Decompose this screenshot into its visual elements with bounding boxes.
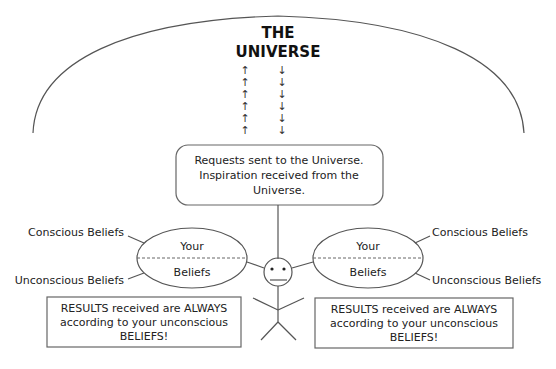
- right-results-box: RESULTS received are ALWAYS according to…: [315, 298, 513, 348]
- right-beliefs: Your Beliefs Conscious Beliefs Unconscio…: [292, 226, 542, 288]
- requests-line-2: Inspiration received from the: [199, 169, 359, 182]
- left-beliefs: Your Beliefs Conscious Beliefs Unconscio…: [15, 226, 264, 288]
- right-results-line-2: according to your unconscious: [330, 317, 498, 330]
- right-conscious-pointer: [415, 236, 430, 243]
- requests-box: Requests sent to the Universe. Inspirati…: [176, 145, 383, 205]
- left-eye-icon: [270, 267, 273, 270]
- right-ellipse-to-head-line: [292, 262, 313, 268]
- right-results-line-1: RESULTS received are ALWAYS: [331, 303, 498, 316]
- requests-line-3: Universe.: [253, 184, 305, 197]
- right-beliefs-bottom: Beliefs: [350, 266, 387, 279]
- left-beliefs-top: Your: [179, 240, 204, 253]
- stick-figure: [253, 258, 304, 340]
- title-line-1: THE: [261, 24, 294, 42]
- left-conscious-pointer: [128, 236, 144, 243]
- left-results-line-2: according to your unconscious: [60, 316, 228, 329]
- right-leg-line: [278, 322, 296, 340]
- left-results-line-3: BELIEFS!: [120, 330, 168, 343]
- down-arrow-icon: ↓: [277, 124, 286, 137]
- left-beliefs-bottom: Beliefs: [174, 266, 211, 279]
- requests-line-1: Requests sent to the Universe.: [194, 154, 363, 167]
- right-results-line-3: BELIEFS!: [390, 331, 438, 344]
- right-arm-line: [278, 298, 304, 310]
- universe-diagram: THE UNIVERSE ↑ ↑ ↑ ↑ ↑ ↑ ↓ ↓ ↓ ↓ ↓ ↓ Req…: [0, 0, 556, 369]
- right-beliefs-top: Your: [355, 240, 380, 253]
- right-conscious-label: Conscious Beliefs: [432, 226, 528, 239]
- right-unconscious-label: Unconscious Beliefs: [432, 274, 542, 287]
- right-eye-icon: [282, 267, 285, 270]
- left-unconscious-label: Unconscious Beliefs: [15, 274, 125, 287]
- left-arm-line: [253, 298, 278, 310]
- up-arrow-icon: ↑: [240, 124, 249, 137]
- left-conscious-label: Conscious Beliefs: [28, 226, 124, 239]
- title-line-2: UNIVERSE: [236, 43, 321, 61]
- left-ellipse-to-head-line: [247, 262, 264, 268]
- head-circle: [264, 258, 292, 286]
- left-results-box: RESULTS received are ALWAYS according to…: [47, 297, 241, 347]
- up-arrows: ↑ ↑ ↑ ↑ ↑ ↑: [240, 64, 249, 137]
- left-results-line-1: RESULTS received are ALWAYS: [61, 302, 228, 315]
- right-unconscious-pointer: [415, 273, 430, 280]
- left-leg-line: [261, 322, 278, 340]
- left-unconscious-pointer: [128, 273, 144, 279]
- down-arrows: ↓ ↓ ↓ ↓ ↓ ↓: [277, 64, 286, 137]
